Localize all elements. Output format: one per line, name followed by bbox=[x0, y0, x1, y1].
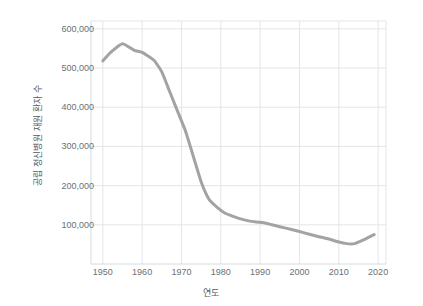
x-axis-tick-label: 2020 bbox=[354, 267, 402, 277]
y-axis-tick-label: 400,000 bbox=[34, 102, 94, 112]
y-axis-tick-label: 200,000 bbox=[34, 181, 94, 191]
plot-background bbox=[91, 21, 386, 264]
line-chart-plot bbox=[0, 0, 423, 306]
chart-container: 공립 정신병원 재원 환자 수 연도 100,000200,000300,000… bbox=[0, 0, 423, 306]
y-axis-tick-label: 500,000 bbox=[34, 63, 94, 73]
y-axis-tick-label: 100,000 bbox=[34, 220, 94, 230]
y-axis-tick-label: 600,000 bbox=[34, 24, 94, 34]
x-axis-label: 연도 bbox=[0, 286, 423, 299]
y-axis-tick-label: 300,000 bbox=[34, 141, 94, 151]
